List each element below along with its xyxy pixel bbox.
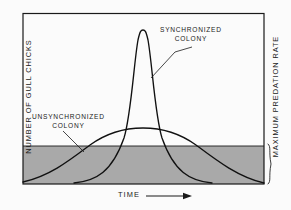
series-label-unsynchronized: UNSYNCHRONIZED COLONY bbox=[32, 112, 105, 130]
series-label-synchronized-line2: COLONY bbox=[160, 34, 222, 43]
x-axis-label: TIME bbox=[118, 190, 140, 199]
series-label-unsynchronized-line1: UNSYNCHRONIZED bbox=[32, 112, 105, 121]
leader-line-synchronized bbox=[151, 47, 192, 78]
y-axis-label-left: NUMBER OF GULL CHICKS bbox=[24, 17, 33, 177]
chart-canvas bbox=[0, 0, 291, 210]
series-label-unsynchronized-line2: COLONY bbox=[32, 121, 105, 130]
series-label-synchronized: SYNCHRONIZED COLONY bbox=[160, 25, 222, 43]
series-label-synchronized-line1: SYNCHRONIZED bbox=[160, 25, 222, 34]
y-axis-label-right: MAXIMUM PREDATION RATE bbox=[271, 17, 280, 177]
x-axis-arrow-icon bbox=[146, 193, 192, 199]
predation-shaded-band bbox=[23, 146, 264, 184]
figure-container: NUMBER OF GULL CHICKS MAXIMUM PREDATION … bbox=[0, 0, 291, 210]
